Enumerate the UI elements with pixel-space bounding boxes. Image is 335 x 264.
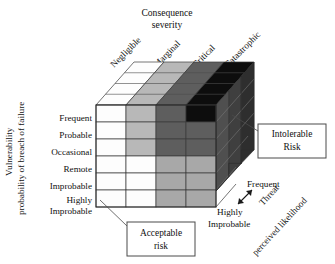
y-label-remote: Remote xyxy=(63,164,92,174)
cell-r4c1 xyxy=(96,156,126,173)
callout-acceptable-risk[interactable]: Acceptable risk xyxy=(100,200,195,256)
callout-intolerable-line-1: Intolerable xyxy=(272,129,313,139)
z-axis-double-arrow xyxy=(238,190,252,204)
cell-r3c3 xyxy=(156,139,186,156)
y-label-highly-improbable-line-2: Improbable xyxy=(50,206,92,216)
cell-r2c3 xyxy=(156,122,186,139)
z-label-highly: Highly xyxy=(217,207,243,217)
cell-r3c1 xyxy=(96,139,126,156)
z-axis-title: Threat perceived likelihood xyxy=(250,183,309,258)
cell-r1c1 xyxy=(96,105,126,122)
y-axis-title-line-2: probability of breach of failure xyxy=(16,102,26,215)
cell-r2c1 xyxy=(96,122,126,139)
callout-intolerable-line-2: Risk xyxy=(283,142,301,152)
cell-r2c4 xyxy=(186,122,216,139)
cell-r4c2 xyxy=(126,156,156,173)
y-label-improbable: Improbable xyxy=(50,181,92,191)
cell-r3c4 xyxy=(186,139,216,156)
risk-cube-diagram: Consequence severity Negligible Marginal… xyxy=(0,0,335,264)
chart-title-line-1: Consequence xyxy=(141,7,192,18)
y-axis-title-line-1: Vulnerability xyxy=(4,127,14,176)
cell-r4c4 xyxy=(186,156,216,173)
chart-title-line-2: severity xyxy=(152,19,183,30)
y-label-probable: Probable xyxy=(59,130,92,140)
cell-r4c3 xyxy=(156,156,186,173)
cube-bottom-face xyxy=(96,184,236,207)
cell-r1c3 xyxy=(156,105,186,122)
cell-r1c2 xyxy=(126,105,156,122)
callout-acceptable-line-2: risk xyxy=(154,241,168,251)
y-label-highly-improbable-line-1: Highly xyxy=(66,195,92,205)
y-axis-title: Vulnerability probability of breach of f… xyxy=(4,102,26,215)
cell-r3c2 xyxy=(126,139,156,156)
z-axis-title-line-2: perceived likelihood xyxy=(250,195,309,257)
callout-acceptable-line-1: Acceptable xyxy=(140,228,182,238)
y-label-frequent: Frequent xyxy=(59,113,92,123)
cell-r1c4 xyxy=(186,105,216,122)
y-label-occasional: Occasional xyxy=(51,147,92,157)
y-axis-category-labels: Frequent Probable Occasional Remote Impr… xyxy=(50,113,93,216)
z-label-improbable: Improbable xyxy=(208,219,250,229)
cell-r2c2 xyxy=(126,122,156,139)
